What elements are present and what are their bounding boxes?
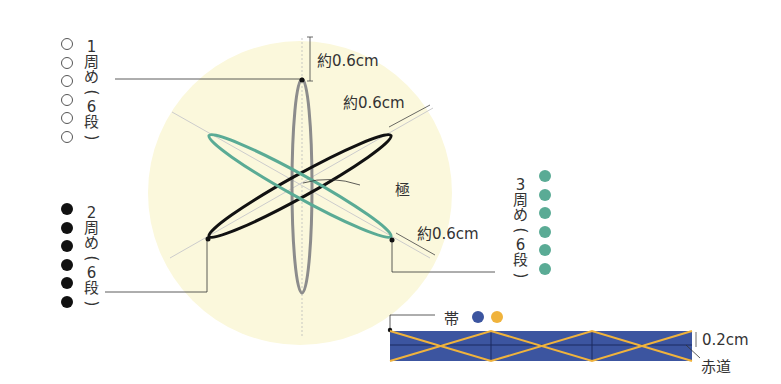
equator-label: 赤道 [701, 355, 731, 376]
teal-dot-icon [539, 244, 551, 256]
open-dot-icon [61, 57, 73, 69]
label-char: ) [84, 301, 99, 307]
teal-dot-icon [539, 170, 551, 182]
width-label-diag-upper: 約0.6cm [343, 91, 405, 112]
label-char: ) [84, 135, 99, 141]
teal-dot-icon [539, 189, 551, 201]
label-char: め [513, 208, 528, 223]
band-color-blue [472, 311, 484, 323]
band-height-label: 0.2cm [702, 331, 749, 349]
black-dot-icon [61, 222, 73, 234]
round1-label: 1 周 め ( 6 段 ) [84, 40, 99, 145]
label-char: ( [84, 256, 99, 262]
label-char: め [84, 70, 99, 85]
black-dot-icon [61, 240, 73, 252]
teal-dot-icon [539, 207, 551, 219]
width-label-diag-lower: 約0.6cm [417, 222, 479, 243]
label-char: ) [513, 273, 528, 279]
label-char: ( [84, 90, 99, 96]
width-label-top: 約0.6cm [317, 49, 379, 70]
label-char: 段 [84, 115, 99, 130]
band-leader [390, 315, 435, 330]
pole-label: 極 [395, 178, 410, 199]
round1-anchor-dot [300, 78, 305, 83]
band-color-yellow [491, 311, 503, 323]
ball-diagram [0, 0, 781, 384]
round2-dots [61, 203, 73, 308]
round3-dots [539, 170, 551, 275]
open-dot-icon [61, 131, 73, 143]
round1-dots [61, 38, 73, 143]
black-dot-icon [61, 296, 73, 308]
label-char: め [84, 236, 99, 251]
black-dot-icon [61, 203, 73, 215]
open-dot-icon [61, 75, 73, 87]
round2-label: 2 周 め ( 6 段 ) [84, 206, 99, 311]
label-char: 段 [513, 253, 528, 268]
open-dot-icon [61, 112, 73, 124]
label-char: ( [513, 228, 528, 234]
black-dot-icon [61, 277, 73, 289]
black-dot-icon [61, 259, 73, 271]
open-dot-icon [61, 38, 73, 50]
round3-label: 3 周 め ( 6 段 ) [513, 178, 528, 283]
teal-dot-icon [539, 263, 551, 275]
round3-anchor-dot [390, 238, 395, 243]
open-dot-icon [61, 94, 73, 106]
label-char: 段 [84, 281, 99, 296]
teal-dot-icon [539, 226, 551, 238]
band-label: 帯 [444, 307, 459, 328]
round2-anchor-dot [206, 237, 211, 242]
